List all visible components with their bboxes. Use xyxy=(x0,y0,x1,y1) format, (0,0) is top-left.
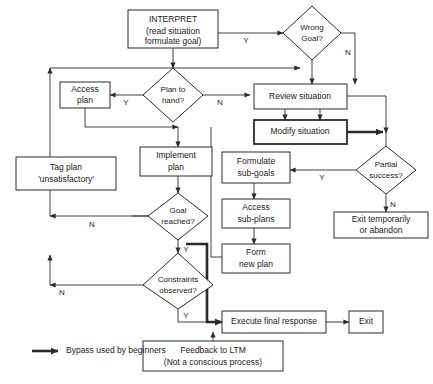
node-partial-success: Partial success? xyxy=(356,146,416,194)
edge-label-constraints-yes: Y xyxy=(183,311,189,320)
node-access-subplans-line1: Access xyxy=(242,202,269,212)
node-review-situation: Review situation xyxy=(254,84,347,109)
edge-label-partial-no: N xyxy=(390,200,396,209)
node-goal-reached-line1: Goal xyxy=(170,206,187,215)
legend-label: Bypass used by beginners xyxy=(66,345,166,355)
node-exit-label: Exit xyxy=(359,316,374,326)
node-constraints-line2: observed? xyxy=(159,286,197,295)
edge-label-partial-yes: Y xyxy=(319,173,325,182)
node-access-subplans-line2: sub-plans xyxy=(238,214,275,224)
node-interpret-line2: (read situation xyxy=(146,26,200,36)
edge-wrong-goal-no xyxy=(341,33,355,84)
node-implement-plan-line2: plan xyxy=(168,162,184,172)
node-execute-final-response: Execute final response xyxy=(222,311,326,333)
node-modify-situation-label: Modify situation xyxy=(270,126,329,136)
node-implement-plan: Implement plan xyxy=(140,147,212,176)
edge-form-new-plan-loop xyxy=(211,127,222,257)
node-goal-reached-line2: reached? xyxy=(161,217,195,226)
node-constraints-line1: Constraints xyxy=(158,275,198,284)
node-formulate-subgoals: Formulate sub-goals xyxy=(222,152,290,183)
edge-label-goal-no: N xyxy=(89,220,95,229)
node-access-plan-line2: plan xyxy=(77,95,93,105)
edge-label-goal-yes: Y xyxy=(183,245,189,254)
node-plan-to-hand-line1: Plan to xyxy=(161,85,186,94)
node-interpret: INTERPRET (read situation formulate goal… xyxy=(128,10,218,48)
edge-label-plan-no: N xyxy=(217,98,223,107)
node-goal-reached: Goal reached? xyxy=(148,193,208,240)
edge-label-plan-yes: Y xyxy=(123,98,129,107)
node-feedback-ltm-line1: Feedback to LTM xyxy=(180,345,246,355)
node-wrong-goal: Wrong Goal? xyxy=(283,6,341,60)
node-formulate-subgoals-line1: Formulate xyxy=(237,156,276,166)
edge-label-wrong-goal-no: N xyxy=(345,48,351,57)
node-form-new-plan: Form new plan xyxy=(222,244,290,273)
flowchart-diagram: INTERPRET (read situation formulate goal… xyxy=(0,0,433,384)
node-execute-final-response-label: Execute final response xyxy=(231,316,317,326)
node-form-new-plan-line1: Form xyxy=(246,247,266,257)
flowchart-canvas: INTERPRET (read situation formulate goal… xyxy=(0,0,433,384)
node-wrong-goal-line1: Wrong xyxy=(300,23,323,32)
node-form-new-plan-line2: new plan xyxy=(239,259,273,269)
legend: Bypass used by beginners xyxy=(66,345,166,355)
node-access-plan: Access plan xyxy=(60,82,110,108)
node-tag-plan: Tag plan 'unsatisfactory' xyxy=(16,157,116,190)
node-interpret-line3: formulate goal) xyxy=(145,36,202,46)
node-partial-success-line1: Partial xyxy=(375,160,398,169)
edge-label-interpret-yes: Y xyxy=(243,36,249,45)
node-formulate-subgoals-line2: sub-goals xyxy=(238,168,275,178)
node-partial-success-line2: success? xyxy=(369,171,403,180)
node-wrong-goal-line2: Goal? xyxy=(301,34,323,43)
node-tag-plan-line1: Tag plan xyxy=(50,162,82,172)
node-exit-temporarily: Exit temporarily or abandon xyxy=(334,212,428,238)
connector-layer xyxy=(32,33,386,351)
node-feedback-ltm-line2: (Not a conscious process) xyxy=(164,357,262,367)
node-modify-situation: Modify situation xyxy=(254,120,347,144)
node-access-subplans: Access sub-plans xyxy=(222,199,290,228)
node-exit: Exit xyxy=(349,311,383,333)
node-plan-to-hand: Plan to hand? xyxy=(143,68,203,122)
node-constraints-observed: Constraints observed? xyxy=(143,253,213,309)
edge-review-to-partial xyxy=(347,96,386,133)
node-tag-plan-line2: 'unsatisfactory' xyxy=(38,174,94,184)
node-exit-temporarily-line1: Exit temporarily xyxy=(352,214,411,224)
node-plan-to-hand-line2: hand? xyxy=(162,96,185,105)
edge-label-constraints-no: N xyxy=(59,288,65,297)
node-implement-plan-line1: Implement xyxy=(156,150,196,160)
node-access-plan-line1: Access xyxy=(71,84,98,94)
node-interpret-line1: INTERPRET xyxy=(149,14,197,24)
node-review-situation-label: Review situation xyxy=(269,91,331,101)
node-exit-temporarily-line2: or abandon xyxy=(359,225,402,235)
